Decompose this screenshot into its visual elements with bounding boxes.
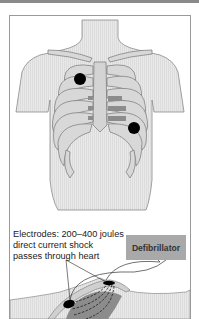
caption-line-2: direct current shock — [13, 240, 124, 251]
defibrillator-box: Defibrillator — [126, 235, 186, 260]
upper-right-chest-electrode — [74, 73, 86, 85]
defibrillation-illustration — [0, 0, 199, 319]
electrode-caption: Electrodes: 200–400 joules direct curren… — [13, 229, 124, 262]
caption-line-3: passes through heart — [13, 251, 124, 262]
lower-left-chest-electrode — [128, 122, 140, 134]
sternum — [93, 62, 107, 132]
caption-line-1: Electrodes: 200–400 joules — [13, 229, 124, 240]
defibrillator-label: Defibrillator — [132, 243, 180, 253]
